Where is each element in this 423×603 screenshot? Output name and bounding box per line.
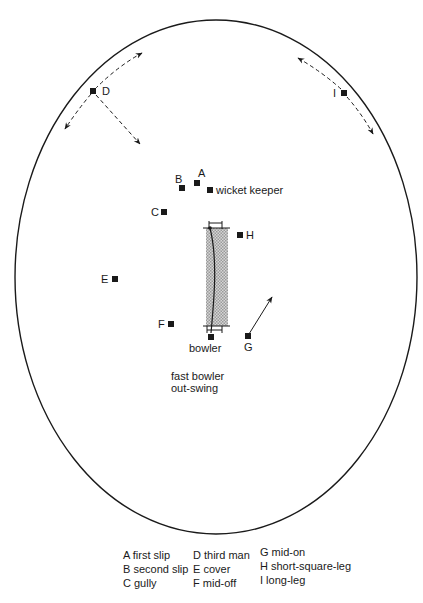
legend-item-d: D third man (193, 548, 260, 562)
fielder-label-f: F (158, 318, 165, 330)
diagram-caption: fast bowler out-swing (171, 370, 224, 394)
legend-item-g: G mid-on (260, 545, 370, 559)
fielder-marker-wicket-keeper (207, 187, 213, 193)
fielder-label-g: G (244, 341, 253, 353)
fielder-marker-c (161, 209, 167, 215)
fielder-label-b: B (175, 173, 182, 185)
fielder-label-e: E (101, 273, 108, 285)
caption-line-1: fast bowler (171, 370, 224, 382)
fielder-label-d: D (102, 85, 110, 97)
third-man-movement-arrows (65, 53, 142, 144)
fielder-label-a: A (198, 167, 205, 179)
legend-item-i: I long-leg (260, 573, 370, 587)
fielder-marker-b (179, 185, 185, 191)
legend-item-c: C gully (123, 576, 193, 590)
pitch (203, 221, 230, 333)
fielder-marker-h (237, 232, 243, 238)
legend-item-a: A first slip (123, 548, 193, 562)
mid-on-movement-arrow (249, 297, 272, 334)
fielder-label-i: I (333, 87, 336, 99)
legend-item-e: E cover (193, 562, 260, 576)
legend-column-3: G mid-on H short-square-leg I long-leg (260, 545, 370, 590)
fielder-label-h: H (246, 229, 254, 241)
position-legend: A first slip B second slip C gully D thi… (123, 548, 370, 590)
fielder-marker-g (245, 333, 251, 339)
fielder-marker-e (112, 276, 118, 282)
fielder-marker-d (90, 88, 96, 94)
legend-item-f: F mid-off (193, 576, 260, 590)
legend-item-b: B second slip (123, 562, 193, 576)
fielder-marker-a (194, 180, 200, 186)
fielder-label-bowler: bowler (189, 342, 221, 354)
legend-item-h: H short-square-leg (260, 559, 370, 573)
caption-line-2: out-swing (171, 382, 224, 394)
fielder-marker-bowler (208, 334, 214, 340)
cricket-field-diagram (0, 0, 423, 603)
fielder-label-c: C (151, 206, 159, 218)
fielder-marker-i (341, 90, 347, 96)
fielder-label-wicket-keeper: wicket keeper (216, 184, 283, 196)
fielder-marker-f (168, 321, 174, 327)
legend-column-2: D third man E cover F mid-off (193, 548, 260, 590)
legend-column-1: A first slip B second slip C gully (123, 548, 193, 590)
